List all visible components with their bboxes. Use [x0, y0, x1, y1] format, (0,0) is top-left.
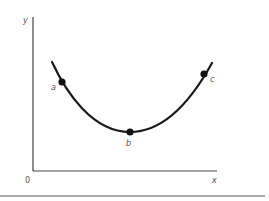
origin-label: 0 [25, 176, 30, 185]
point-b-label: b [126, 139, 131, 148]
point-b [126, 128, 133, 135]
point-c [200, 70, 207, 77]
u-curve-diagram: y 0 x a b c [0, 0, 269, 201]
point-a [58, 78, 65, 85]
y-axis-label: y [22, 16, 28, 25]
point-c-label: c [210, 75, 215, 84]
x-axis-label: x [211, 176, 217, 185]
u-shaped-curve [52, 62, 212, 132]
point-a-label: a [51, 83, 56, 92]
